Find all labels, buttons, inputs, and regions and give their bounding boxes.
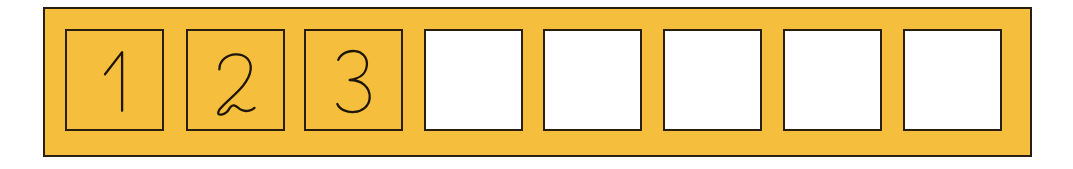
handwritten-digit-2 (188, 31, 283, 129)
empty-cell[interactable] (663, 29, 762, 131)
number-cell: 2 (186, 29, 285, 131)
empty-cell[interactable] (783, 29, 882, 131)
empty-cell[interactable] (424, 29, 523, 131)
empty-cell[interactable] (903, 29, 1002, 131)
handwritten-digit-1 (67, 31, 162, 129)
number-cell: 1 (65, 29, 164, 131)
handwritten-digit-3 (306, 31, 401, 129)
number-sequence-strip: 123 (43, 7, 1032, 157)
empty-cell[interactable] (543, 29, 642, 131)
number-cell: 3 (304, 29, 403, 131)
